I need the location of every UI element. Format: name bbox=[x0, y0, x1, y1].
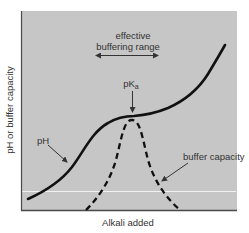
ph-label: pH bbox=[37, 135, 49, 146]
effective-label: effective bbox=[115, 30, 150, 41]
y-axis-label: pH or buffer capacity bbox=[4, 66, 15, 154]
buffer-titration-diagram: effective buffering range pKa pH buffer … bbox=[0, 0, 249, 233]
diagram-canvas: effective buffering range pKa pH buffer … bbox=[0, 0, 249, 233]
x-axis-label: Alkali added bbox=[102, 217, 154, 228]
buffering-range-label: buffering range bbox=[96, 41, 160, 52]
buffer-capacity-label: buffer capacity bbox=[183, 151, 245, 162]
